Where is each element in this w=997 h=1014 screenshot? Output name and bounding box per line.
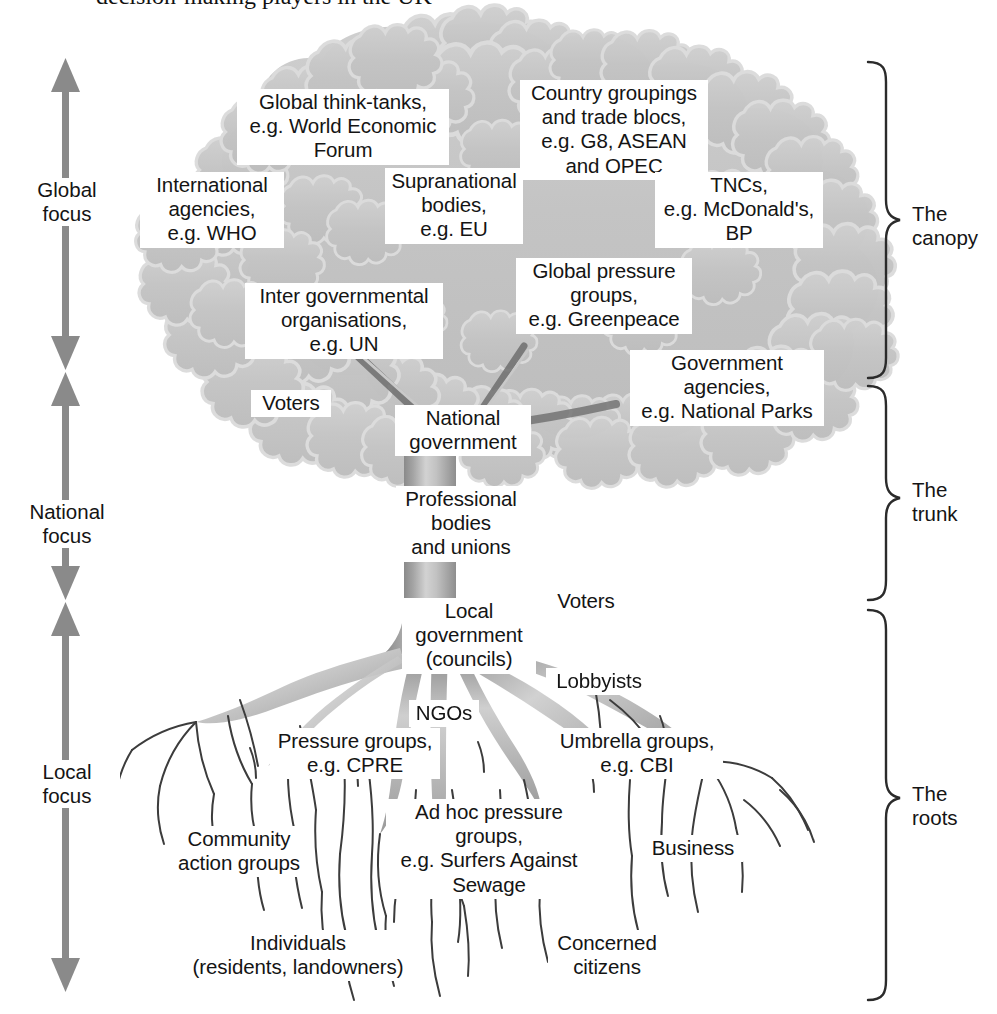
label-global-think-tanks: Global think-tanks, e.g. World Economic … [237,89,449,165]
axis-label-local: Local focus [14,760,120,808]
figure-canvas: decision-making players in the UK [0,0,997,1014]
label-community-action-groups: Community action groups [166,826,312,877]
label-international-agencies: International agencies, e.g. WHO [140,172,284,248]
label-global-pressure-groups: Global pressure groups, e.g. Greenpeace [516,258,692,334]
tree-diagram: decision-making players in the UK [0,0,997,1014]
label-supranational-bodies: Supranational bodies, e.g. EU [385,168,523,244]
bracket-trunk [868,386,900,600]
label-lobbyists: Lobbyists [546,668,652,695]
label-pressure-groups: Pressure groups, e.g. CPRE [270,728,440,779]
label-umbrella-groups: Umbrella groups, e.g. CBI [551,728,723,779]
label-professional-bodies-and-unions: Professional bodies and unions [396,486,526,562]
label-government-agencies: Government agencies, e.g. National Parks [630,350,824,426]
label-individuals: Individuals (residents, landowners) [180,930,416,981]
label-ad-hoc-pressure-groups: Ad hoc pressure groups, e.g. Surfers Aga… [386,799,592,899]
label-voters-canopy: Voters [251,390,331,417]
bracket-label-roots: The roots [912,782,958,830]
bracket-label-trunk: The trunk [912,478,958,526]
label-concerned-citizens: Concerned citizens [548,930,666,981]
label-tncs: TNCs, e.g. McDonald's, BP [655,172,823,248]
label-voters-roots: Voters [546,588,626,615]
bracket-roots [868,610,900,1000]
label-inter-governmental-organisations: Inter governmental organisations, e.g. U… [245,283,443,359]
label-business: Business [643,835,743,862]
label-country-groupings: Country groupings and trade blocs, e.g. … [520,80,708,180]
label-local-government-councils: Local government (councils) [402,598,536,674]
axis-label-national: National focus [8,500,126,548]
bracket-label-canopy: The canopy [912,202,978,250]
arrow-national [51,372,80,600]
axis-label-global: Global focus [14,178,120,226]
label-national-government: National government [395,405,531,456]
label-ngos: NGOs [409,700,479,727]
